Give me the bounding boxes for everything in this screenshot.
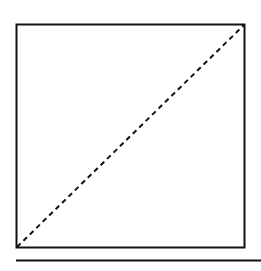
diagram-canvas bbox=[0, 0, 261, 271]
dashed-diagonal-line bbox=[17, 25, 244, 247]
diagram-figure bbox=[0, 0, 261, 271]
